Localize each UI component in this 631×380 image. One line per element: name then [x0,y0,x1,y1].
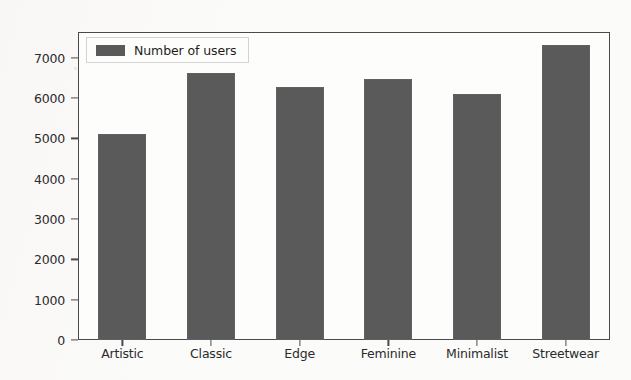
x-tick-label: Minimalist [446,346,508,361]
x-tick-label: Artistic [101,346,143,361]
y-tick-label: 4000 [34,171,65,186]
y-tick-mark [71,339,78,340]
y-tick-mark [71,57,78,58]
legend-swatch-number-of-users [96,45,125,56]
y-tick-label: 5000 [34,131,65,146]
chart-page: 01000200030004000500060007000 ArtisticCl… [0,0,631,380]
x-tick-label: Classic [190,346,232,361]
y-tick-label: 0 [57,333,65,348]
y-tick-mark [71,299,78,300]
y-tick-mark [71,98,78,99]
y-tick-mark [71,178,78,179]
y-tick-mark [71,259,78,260]
x-tick-label: Feminine [361,346,416,361]
x-tick-label: Edge [284,346,315,361]
y-tick-label: 2000 [34,252,65,267]
legend: Number of users [86,37,249,63]
y-tick-label: 3000 [34,212,65,227]
y-tick-mark [71,138,78,139]
x-tick-label: Streetwear [532,346,599,361]
plot-area [78,32,610,340]
y-tick-label: 6000 [34,91,65,106]
legend-label-number-of-users: Number of users [134,43,237,58]
y-tick-mark [71,218,78,219]
y-tick-label: 1000 [34,292,65,307]
y-tick-label: 7000 [34,50,65,65]
